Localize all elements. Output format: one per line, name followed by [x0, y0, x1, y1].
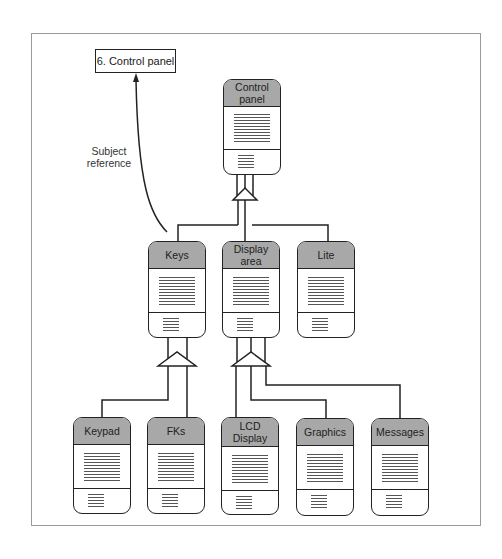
attribute-lines — [84, 453, 120, 481]
service-lines — [311, 495, 327, 509]
class-name: Messages — [372, 419, 428, 446]
class-control-panel[interactable]: Control panel — [223, 79, 281, 175]
services-section — [297, 490, 353, 509]
class-keys[interactable]: Keys — [148, 241, 206, 338]
services-section — [298, 313, 354, 332]
services-section — [148, 489, 204, 508]
services-section — [222, 491, 278, 510]
class-fks[interactable]: FKs — [147, 417, 205, 514]
attributes-section — [298, 269, 354, 313]
class-name: Keypad — [74, 418, 130, 445]
attribute-lines — [308, 277, 344, 305]
attribute-lines — [233, 277, 269, 305]
service-lines — [163, 318, 179, 332]
class-name: Graphics — [297, 419, 353, 446]
service-lines — [238, 155, 254, 169]
service-lines — [386, 495, 402, 509]
class-lite[interactable]: Lite — [297, 241, 355, 338]
class-name: Display area — [223, 242, 279, 269]
attributes-section — [148, 445, 204, 489]
attribute-lines — [382, 454, 418, 482]
subject-reference-label: Subject reference — [84, 145, 134, 169]
attributes-section — [372, 446, 428, 490]
attribute-lines — [159, 277, 195, 305]
services-section — [149, 313, 205, 332]
services-section — [223, 313, 279, 332]
services-section — [224, 150, 280, 169]
class-name: FKs — [148, 418, 204, 445]
class-keypad[interactable]: Keypad — [73, 417, 131, 514]
attributes-section — [223, 269, 279, 313]
attributes-section — [297, 446, 353, 490]
class-name: Control panel — [224, 80, 280, 107]
attribute-lines — [234, 114, 270, 142]
class-name: LCD Display — [222, 418, 278, 447]
attributes-section — [224, 107, 280, 150]
class-messages[interactable]: Messages — [371, 418, 429, 516]
service-lines — [312, 318, 328, 332]
attributes-section — [74, 445, 130, 489]
reference-box: 6. Control panel — [95, 49, 176, 73]
class-name: Lite — [298, 242, 354, 269]
service-lines — [236, 496, 252, 510]
attribute-lines — [232, 455, 268, 483]
class-name: Keys — [149, 242, 205, 269]
service-lines — [237, 318, 253, 332]
attributes-section — [149, 269, 205, 313]
class-display-area[interactable]: Display area — [222, 241, 280, 338]
class-lcd-display[interactable]: LCD Display — [221, 417, 279, 515]
service-lines — [162, 494, 178, 508]
attribute-lines — [307, 454, 343, 482]
class-graphics[interactable]: Graphics — [296, 418, 354, 516]
services-section — [372, 490, 428, 509]
attributes-section — [222, 447, 278, 491]
attribute-lines — [158, 453, 194, 481]
services-section — [74, 489, 130, 508]
service-lines — [88, 494, 104, 508]
